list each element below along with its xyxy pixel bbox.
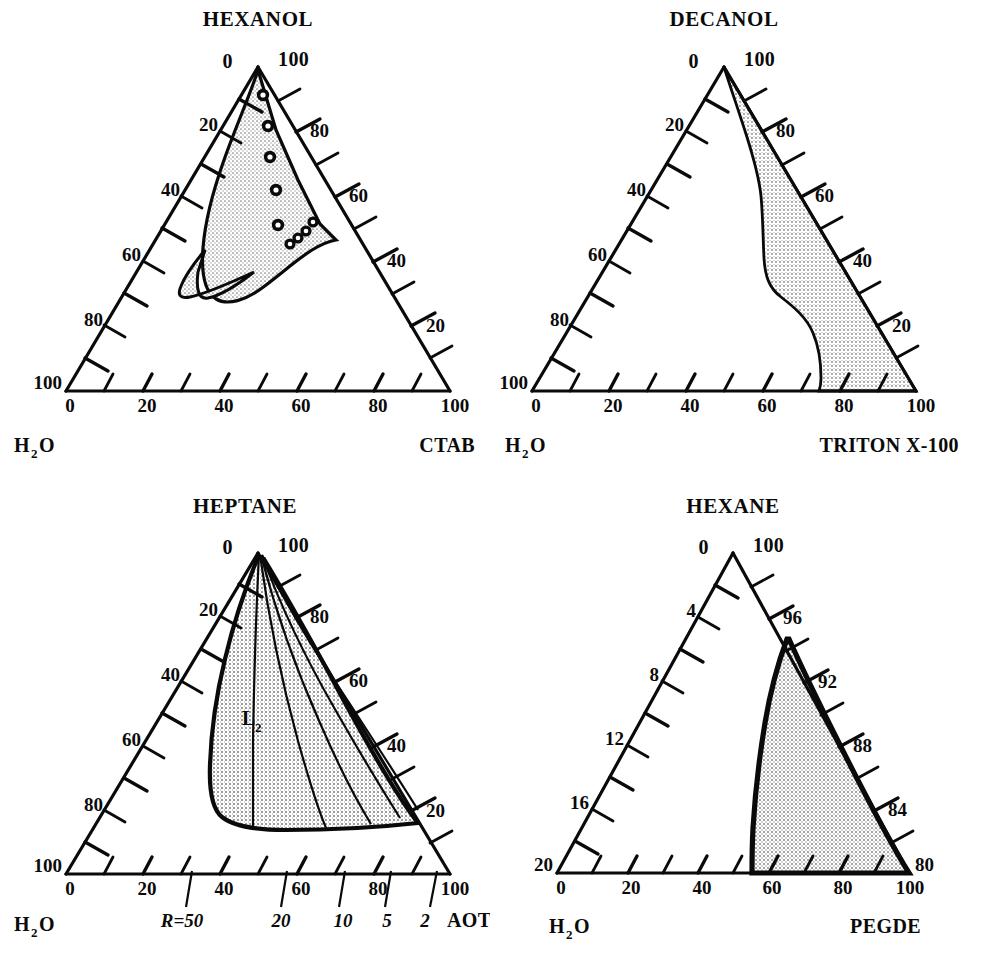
left-corner-value: 100 (34, 372, 63, 393)
left-corner-label: H 2 O (549, 915, 590, 942)
bottom-tick-100: 100 (896, 877, 925, 898)
bottom-axis-ticks (104, 374, 421, 391)
left-tick-16: 16 (570, 792, 589, 813)
bottom-tick-100: 100 (441, 878, 470, 899)
apex-left-value: 0 (689, 50, 699, 72)
right-tick-80: 80 (776, 120, 795, 141)
ratio-label-5: 5 (382, 910, 392, 931)
bottom-tick-80: 80 (834, 877, 853, 898)
left-corner-value: 100 (500, 372, 529, 393)
left-tick-40: 40 (161, 179, 180, 200)
apex-right-value: 100 (278, 534, 309, 556)
right-tick-84: 84 (888, 799, 908, 820)
left-tick-4: 4 (687, 600, 697, 621)
apex-left-value: 0 (699, 536, 709, 558)
bottom-tick-40: 40 (681, 395, 700, 416)
bottom-tick-0: 0 (65, 395, 75, 416)
left-tick-8: 8 (650, 664, 660, 685)
left-corner-label: H 2 O (14, 913, 55, 940)
right-tick-40: 40 (853, 250, 872, 271)
ratio-label-20: 20 (271, 910, 292, 931)
left-corner-label: H 2 O (14, 434, 55, 461)
phase-label-base: L (242, 707, 255, 729)
left-tick-80: 80 (550, 309, 569, 330)
bottom-tick-0: 0 (65, 878, 75, 899)
panel-hexane: HEXANE (491, 483, 981, 966)
left-tick-20: 20 (665, 114, 684, 135)
ratio-label-10: 10 (334, 910, 354, 931)
right-tick-60: 60 (815, 185, 834, 206)
left-tick-80: 80 (84, 309, 103, 330)
right-tick-40: 40 (387, 735, 406, 756)
bottom-tick-100: 100 (907, 395, 936, 416)
left-tick-60: 60 (122, 244, 141, 265)
bottom-axis-ticks (104, 857, 421, 874)
bottom-tick-20: 20 (138, 878, 157, 899)
left-axis-ticks (551, 99, 728, 371)
bottom-tick-20: 20 (604, 395, 623, 416)
panel-heptane: HEPTANE (0, 483, 490, 966)
right-tick-20: 20 (892, 315, 911, 336)
left-tick-40: 40 (627, 179, 646, 200)
bottom-tick-60: 60 (763, 877, 782, 898)
right-tick-20: 20 (426, 800, 445, 821)
right-tick-20: 20 (426, 315, 445, 336)
bottom-tick-0: 0 (531, 395, 541, 416)
panel-hexanol: HEXANOL (0, 0, 490, 483)
apex-left-value: 0 (223, 50, 233, 72)
right-tick-80: 80 (310, 606, 329, 627)
svg-text:O: O (530, 434, 546, 456)
apex-left-value: 0 (223, 536, 233, 558)
right-tick-60: 60 (349, 185, 368, 206)
panel-title: HEXANOL (203, 7, 313, 31)
apex-right-value: 100 (278, 48, 309, 70)
panel-title: HEPTANE (193, 494, 297, 518)
right-corner-label: AOT (447, 909, 490, 931)
left-tick-20: 20 (199, 599, 218, 620)
left-corner-value: 20 (534, 854, 553, 875)
svg-text:H: H (14, 913, 30, 935)
svg-text:H: H (14, 434, 30, 456)
phase-label-sub: 2 (255, 720, 262, 735)
svg-text:O: O (39, 434, 55, 456)
bottom-tick-80: 80 (369, 878, 388, 899)
right-tick-40: 40 (387, 250, 406, 271)
right-tick-96: 96 (783, 607, 802, 628)
right-tick-60: 60 (349, 670, 368, 691)
right-corner-label: PEGDE (850, 915, 921, 937)
bottom-tick-100: 100 (441, 395, 470, 416)
left-tick-60: 60 (588, 244, 607, 265)
left-tick-12: 12 (605, 728, 624, 749)
phase-region (210, 557, 418, 830)
bottom-tick-80: 80 (835, 395, 854, 416)
apex-right-value: 100 (744, 48, 775, 70)
svg-text:2: 2 (31, 446, 38, 461)
left-tick-40: 40 (161, 664, 180, 685)
bottom-tick-40: 40 (215, 395, 234, 416)
left-tick-20: 20 (199, 114, 218, 135)
bottom-tick-80: 80 (369, 395, 388, 416)
svg-text:2: 2 (522, 446, 529, 461)
ratio-label-2: 2 (419, 910, 430, 931)
left-axis-ticks (575, 585, 738, 854)
ratio-label-50: R=50 (160, 910, 204, 931)
svg-text:O: O (39, 913, 55, 935)
apex-right-value: 100 (753, 534, 784, 556)
bottom-tick-0: 0 (556, 877, 566, 898)
left-tick-60: 60 (122, 729, 141, 750)
panel-decanol: DECANOL (491, 0, 981, 483)
right-corner-value: 80 (915, 854, 934, 875)
bottom-tick-20: 20 (622, 877, 641, 898)
right-tick-88: 88 (853, 735, 872, 756)
bottom-tick-20: 20 (138, 395, 157, 416)
left-tick-80: 80 (84, 794, 103, 815)
svg-text:H: H (549, 915, 565, 937)
ternary-phase-diagram-figure: HEXANOL (0, 0, 981, 966)
svg-text:O: O (574, 915, 590, 937)
bottom-tick-40: 40 (215, 878, 234, 899)
bottom-tick-60: 60 (292, 395, 311, 416)
bottom-tick-40: 40 (693, 877, 712, 898)
phase-region (203, 70, 336, 302)
bottom-tick-60: 60 (292, 878, 311, 899)
panel-title: DECANOL (669, 7, 778, 31)
